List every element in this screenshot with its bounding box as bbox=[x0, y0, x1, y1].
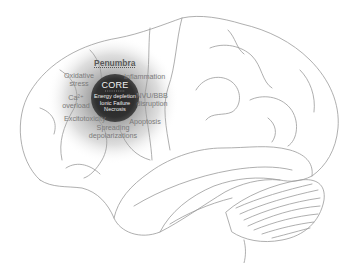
label-inflammation: Inflammation bbox=[124, 73, 164, 81]
label-excitotoxicity: Excitotoxicity bbox=[64, 115, 104, 123]
penumbra-title: Penumbra bbox=[94, 58, 136, 68]
label-spreading-depolarizations: Spreading depolarizations bbox=[88, 124, 138, 140]
brain-outline-svg bbox=[0, 0, 360, 263]
label-nvu-bbb-disruption: NVU/BBB disruption bbox=[134, 92, 170, 108]
label-oxidative-stress: Oxidative stress bbox=[64, 72, 94, 88]
brain-diagram: Penumbra CORE Energy depletion Ionic Fai… bbox=[0, 0, 360, 263]
label-calcium-overload: Ca²⁺ overload bbox=[62, 94, 90, 110]
core-title: CORE bbox=[100, 80, 130, 90]
cerebellum-outline bbox=[226, 180, 324, 242]
